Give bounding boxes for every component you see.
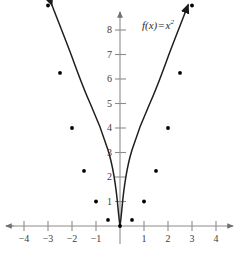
function-argument: (x) — [145, 19, 157, 31]
data-point — [58, 71, 62, 75]
data-point — [142, 200, 146, 204]
x-tick-label-neg4: −4 — [19, 234, 30, 244]
x-tick-label-3: 3 — [190, 234, 195, 244]
data-point — [166, 126, 170, 130]
y-tick-label-5: 5 — [107, 99, 112, 109]
data-point — [154, 169, 158, 173]
function-equation-label: f(x)=x2 — [142, 19, 174, 31]
y-tick-label-2: 2 — [107, 172, 112, 182]
y-tick-label-4: 4 — [107, 123, 112, 133]
graph-canvas — [0, 0, 239, 257]
data-point — [178, 71, 182, 75]
data-point — [94, 200, 98, 204]
data-point — [70, 126, 74, 130]
y-tick-label-3: 3 — [107, 148, 112, 158]
data-point — [118, 224, 122, 228]
x-tick-label-neg3: −3 — [43, 234, 54, 244]
x-tick-label-1: 1 — [142, 234, 147, 244]
y-tick-label-8: 8 — [107, 25, 112, 35]
x-tick-label-neg2: −2 — [67, 234, 78, 244]
equals-sign: = — [157, 19, 165, 31]
parabola-curve-left — [52, 5, 120, 226]
parabola-curve-right — [120, 5, 188, 226]
parabola-figure: −4 −3 −2 −1 1 2 3 4 1 2 3 4 5 6 7 8 f(x)… — [0, 0, 239, 257]
data-point — [130, 218, 134, 222]
x-tick-label-4: 4 — [214, 234, 219, 244]
function-exponent: 2 — [170, 18, 174, 26]
data-point — [190, 4, 194, 8]
data-point — [82, 169, 86, 173]
data-point — [46, 4, 50, 8]
y-tick-label-1: 1 — [107, 197, 112, 207]
x-tick-label-2: 2 — [166, 234, 171, 244]
y-tick-label-7: 7 — [107, 50, 112, 60]
x-tick-label-neg1: −1 — [91, 234, 102, 244]
y-tick-label-6: 6 — [107, 74, 112, 84]
data-point — [106, 218, 110, 222]
